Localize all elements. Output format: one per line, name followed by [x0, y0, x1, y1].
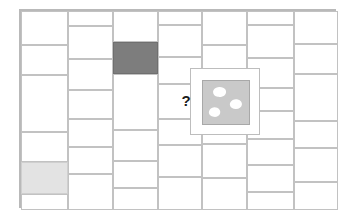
- porous-material-sample: [202, 80, 250, 125]
- tile: [68, 26, 113, 59]
- tile: [158, 25, 202, 57]
- tile: [113, 188, 158, 210]
- tile: [294, 121, 338, 148]
- tile: [21, 132, 68, 162]
- tile: [21, 194, 68, 210]
- sample-detail-panel: [190, 68, 260, 135]
- tile-highlight-light: [21, 162, 68, 194]
- tile: [294, 148, 338, 182]
- tile-column-3: [113, 11, 158, 206]
- tile: [21, 75, 68, 132]
- tile: [68, 11, 113, 26]
- tile: [247, 192, 294, 210]
- tile: [202, 144, 247, 178]
- tile: [294, 11, 338, 44]
- tile: [294, 44, 338, 74]
- tile: [68, 119, 113, 147]
- tile: [294, 74, 338, 121]
- tile: [113, 130, 158, 161]
- tile-column-2: [68, 11, 113, 206]
- tile: [21, 11, 68, 45]
- wall-frame: [19, 9, 336, 208]
- tile: [247, 139, 294, 165]
- tile: [68, 147, 113, 174]
- tile: [68, 174, 113, 210]
- tile: [158, 177, 202, 210]
- tile: [247, 11, 294, 25]
- tiled-wall-figure: ?: [0, 0, 354, 218]
- blob-middle-right-icon: [230, 99, 242, 109]
- tile: [113, 161, 158, 188]
- sample-blobs-graphic: [203, 81, 249, 124]
- tile: [158, 145, 202, 177]
- tile: [68, 90, 113, 119]
- blob-top-left-icon: [213, 87, 226, 97]
- tile: [113, 74, 158, 130]
- tile-column-1: [21, 11, 68, 206]
- tile: [247, 25, 294, 58]
- tile-column-7: [294, 11, 338, 206]
- tile: [113, 11, 158, 42]
- tile: [294, 182, 338, 210]
- tile-highlight-dark: [113, 42, 158, 74]
- tile: [21, 45, 68, 75]
- tile: [202, 178, 247, 210]
- blob-bottom-left-icon: [209, 107, 220, 117]
- tile: [68, 59, 113, 90]
- tile: [247, 165, 294, 192]
- tile: [158, 11, 202, 25]
- question-marker: ?: [180, 93, 192, 109]
- tile: [202, 11, 247, 45]
